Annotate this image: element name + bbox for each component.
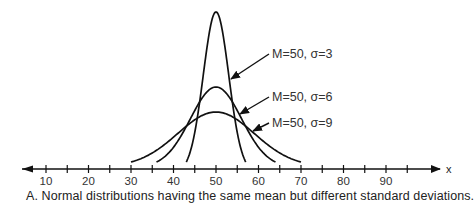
x-tick-label: 20 (82, 175, 95, 187)
x-tick-label: 90 (380, 175, 393, 187)
x-tick-label: 70 (295, 175, 308, 187)
x-tick-label: 30 (125, 175, 138, 187)
curve-sd-6 (157, 87, 276, 162)
annotation-label: M=50, σ=3 (272, 47, 333, 61)
x-tick-label: 60 (252, 175, 265, 187)
annotation-arrow-icon (240, 97, 269, 114)
x-tick-label: 40 (167, 175, 180, 187)
curves (131, 12, 301, 162)
annotation-arrow-icon (253, 123, 269, 131)
x-tick-label: 80 (337, 175, 350, 187)
annotation-arrow-icon (231, 54, 269, 79)
annotation-label: M=50, σ=9 (272, 116, 333, 130)
annotations: M=50, σ=3M=50, σ=6M=50, σ=9 (231, 47, 333, 131)
figure-caption: A. Normal distributions having the same … (26, 189, 474, 203)
annotation-label: M=50, σ=6 (272, 90, 333, 104)
x-tick-label: 10 (40, 175, 53, 187)
x-axis-label: x (446, 163, 452, 175)
x-tick-label: 50 (210, 175, 223, 187)
x-axis: x102030405060708090 (22, 163, 452, 187)
left-arrow-icon (22, 166, 33, 173)
